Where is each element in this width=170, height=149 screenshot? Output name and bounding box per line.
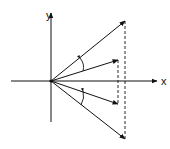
vector-diagram: x y	[0, 0, 170, 149]
vector-long-upper	[51, 21, 125, 81]
upper-angle-arc	[80, 58, 84, 71]
vector-long-lower	[51, 81, 125, 139]
x-axis-label: x	[161, 75, 167, 87]
vector-short-upper	[51, 60, 118, 81]
y-axis-label: y	[46, 9, 52, 21]
vector-short-lower	[51, 81, 118, 104]
lower-angle-arc	[81, 91, 84, 105]
origin-point	[49, 79, 52, 82]
